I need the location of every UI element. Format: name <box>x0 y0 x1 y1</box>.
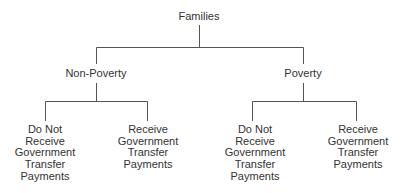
node-label-line: Payments <box>118 159 179 171</box>
node-non-poverty: Non-Poverty <box>65 68 126 80</box>
node-label-line: Payments <box>225 171 286 183</box>
node-label: Families <box>179 11 220 23</box>
node-families: Families <box>179 11 220 23</box>
node-non-poverty-no-transfer: Do Not Receive Government Transfer Payme… <box>15 124 76 183</box>
node-label-line: Receive <box>328 124 389 136</box>
node-label-line: Receive <box>118 124 179 136</box>
node-poverty-receive-transfer: Receive Government Transfer Payments <box>328 124 389 171</box>
node-label-line: Payments <box>328 159 389 171</box>
node-label: Poverty <box>284 68 321 80</box>
node-label: Non-Poverty <box>65 68 126 80</box>
node-poverty-no-transfer: Do Not Receive Government Transfer Payme… <box>225 124 286 183</box>
node-label-line: Payments <box>15 171 76 183</box>
node-label-line: Do Not <box>15 124 76 136</box>
node-non-poverty-receive-transfer: Receive Government Transfer Payments <box>118 124 179 171</box>
node-label-line: Do Not <box>225 124 286 136</box>
family-tree-diagram: Families Non-Poverty Poverty Do Not Rece… <box>0 0 402 193</box>
node-poverty: Poverty <box>284 68 321 80</box>
